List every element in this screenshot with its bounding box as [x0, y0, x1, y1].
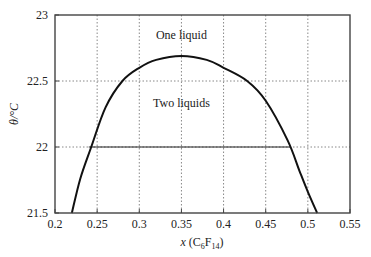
y-tick-label: 22 [36, 140, 48, 154]
x-axis-label: x (C6F14) [179, 235, 223, 251]
x-tick-label: 0.4 [216, 217, 231, 231]
region-label: Two liquids [153, 96, 210, 110]
x-tick-label: 0.55 [340, 217, 361, 231]
x-tick-label: 0.2 [48, 217, 63, 231]
x-tick-label: 0.35 [171, 217, 192, 231]
grid-lines [55, 15, 350, 213]
y-axis-label: θ/°C [7, 102, 21, 125]
y-tick-label: 21.5 [27, 206, 48, 220]
x-tick-label: 0.45 [255, 217, 276, 231]
y-tick-label: 23 [36, 8, 48, 22]
x-tick-label: 0.25 [87, 217, 108, 231]
phase-diagram-chart: 0.20.250.30.350.40.450.50.55 21.52222.52… [0, 0, 371, 257]
x-tick-label: 0.3 [132, 217, 147, 231]
y-tick-label: 22.5 [27, 74, 48, 88]
region-label: One liquid [156, 28, 207, 42]
x-tick-label: 0.5 [300, 217, 315, 231]
coexistence-curve [72, 56, 317, 213]
region-annotations: One liquidTwo liquids [153, 28, 210, 111]
plot-frame [55, 15, 350, 213]
y-axis-ticks: 21.52222.523 [27, 8, 59, 220]
